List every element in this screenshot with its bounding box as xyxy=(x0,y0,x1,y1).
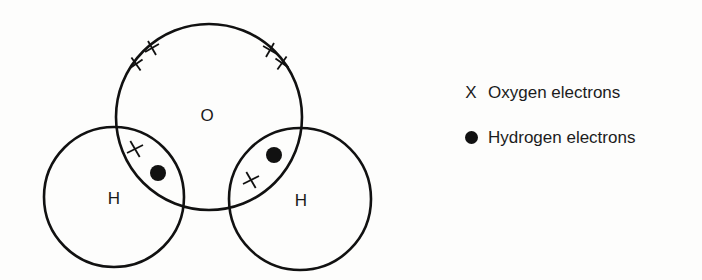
dot-icon xyxy=(460,131,482,144)
legend-item-oxygen: X Oxygen electrons xyxy=(460,70,635,115)
hydrogen-electron-left xyxy=(150,165,166,181)
bond-pair-left xyxy=(127,141,166,181)
legend-item-hydrogen: Hydrogen electrons xyxy=(460,115,635,160)
hydrogen-label-right: H xyxy=(295,191,307,210)
cross-icon: X xyxy=(460,83,482,103)
legend: X Oxygen electrons Hydrogen electrons xyxy=(460,70,635,160)
oxygen-label: O xyxy=(200,106,213,125)
hydrogen-electron-right xyxy=(266,147,282,163)
hydrogen-label-left: H xyxy=(108,189,120,208)
legend-label-oxygen: Oxygen electrons xyxy=(488,83,620,103)
legend-label-hydrogen: Hydrogen electrons xyxy=(488,128,635,148)
